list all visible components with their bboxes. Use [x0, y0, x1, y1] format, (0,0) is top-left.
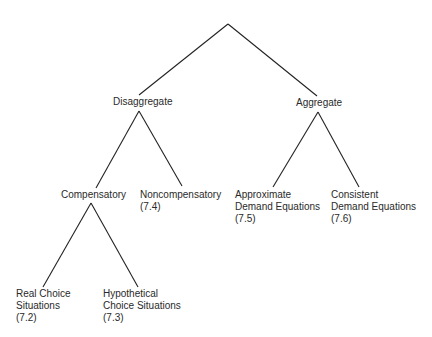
node-disaggregate: Disaggregate — [113, 96, 172, 108]
node-consistent-demand-equations: Consistent Demand Equations (7.6) — [331, 189, 416, 225]
node-noncompensatory: Noncompensatory (7.4) — [140, 189, 221, 213]
edge-compensatory-hypothetical-choice — [91, 203, 138, 287]
edge-compensatory-real-choice — [43, 203, 91, 287]
edge-disaggregate-compensatory — [96, 111, 139, 188]
node-approximate-line2: Demand Equations — [235, 201, 320, 213]
node-real-choice-line2: Situations — [16, 300, 70, 312]
tree-diagram: Disaggregate Aggregate Compensatory Nonc… — [0, 0, 432, 337]
node-noncompensatory-line1: Noncompensatory — [140, 189, 221, 201]
tree-edges — [0, 0, 432, 337]
node-consistent-line2: Demand Equations — [331, 201, 416, 213]
node-consistent-line3: (7.6) — [331, 213, 416, 225]
node-hypothetical-line2: Choice Situations — [103, 300, 181, 312]
edge-root-aggregate — [228, 24, 317, 96]
node-hypothetical-line3: (7.3) — [103, 312, 181, 324]
edge-aggregate-consistent — [318, 112, 359, 187]
node-approximate-line3: (7.5) — [235, 213, 320, 225]
node-aggregate: Aggregate — [296, 97, 342, 109]
node-approximate-line1: Approximate — [235, 189, 320, 201]
node-hypothetical-choice-situations: Hypothetical Choice Situations (7.3) — [103, 288, 181, 324]
node-approximate-demand-equations: Approximate Demand Equations (7.5) — [235, 189, 320, 225]
node-real-choice-line1: Real Choice — [16, 288, 70, 300]
node-consistent-line1: Consistent — [331, 189, 416, 201]
edge-root-disaggregate — [139, 24, 228, 95]
node-real-choice-line3: (7.2) — [16, 312, 70, 324]
node-real-choice-situations: Real Choice Situations (7.2) — [16, 288, 70, 324]
node-noncompensatory-line2: (7.4) — [140, 201, 221, 213]
node-hypothetical-line1: Hypothetical — [103, 288, 181, 300]
edge-disaggregate-noncompensatory — [139, 111, 182, 186]
node-compensatory: Compensatory — [61, 189, 126, 201]
edge-aggregate-approximate — [273, 112, 318, 187]
